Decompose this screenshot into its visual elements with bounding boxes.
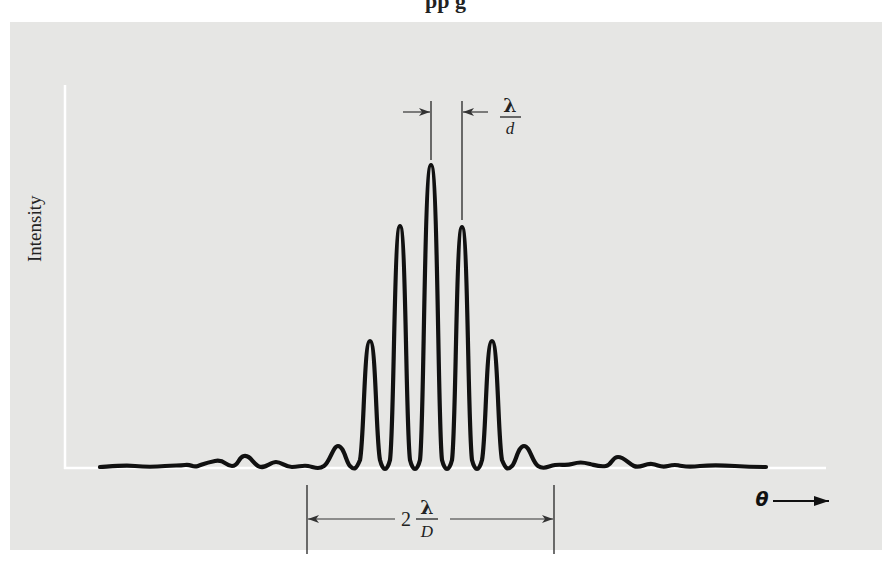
axes — [64, 85, 826, 469]
theta-axis-indicator: θ — [755, 488, 829, 510]
y-axis-label: Intensity — [24, 196, 46, 263]
lambda-over-d-numerator: λ — [503, 94, 516, 116]
lambda-over-d-denominator: d — [506, 119, 515, 138]
envelope-numerator: λ — [420, 496, 433, 518]
envelope-denominator: D — [420, 522, 434, 541]
envelope-width-annotation: 2 λ D — [307, 485, 554, 554]
intensity-curve — [100, 165, 766, 469]
envelope-coefficient: 2 — [401, 508, 411, 530]
x-axis-label: θ — [755, 488, 768, 510]
fringe-spacing-annotation: λ d — [403, 94, 521, 220]
diffraction-figure: λ d 2 λ D θ — [0, 0, 891, 573]
